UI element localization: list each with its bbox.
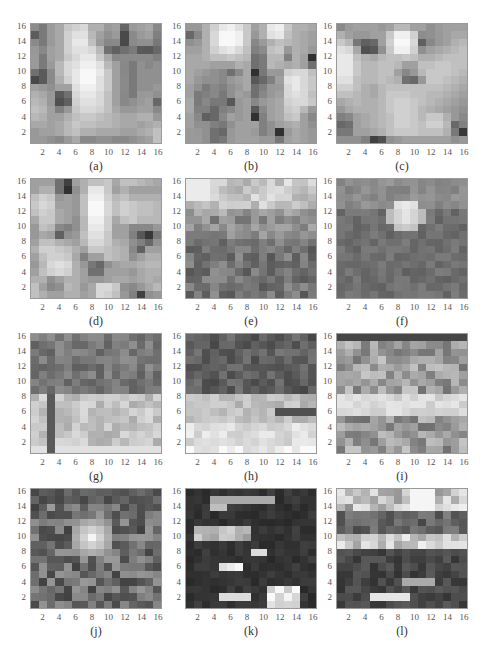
heatmap-cell <box>251 24 259 31</box>
heatmap-cell <box>96 601 104 608</box>
heatmap-cell <box>31 571 39 578</box>
heatmap-cell <box>361 186 369 193</box>
heatmap-cell <box>259 394 267 401</box>
heatmap-cell <box>353 386 361 393</box>
heatmap-cell <box>402 128 410 135</box>
heatmap-cell <box>410 98 418 105</box>
heatmap-cell <box>31 401 39 408</box>
heatmap-cell <box>378 179 386 186</box>
heatmap-cell <box>31 408 39 415</box>
heatmap-cell <box>259 571 267 578</box>
heatmap-cell <box>386 179 394 186</box>
heatmap-cell <box>300 549 308 556</box>
heatmap-cell <box>386 39 394 46</box>
heatmap-cell <box>129 504 137 511</box>
heatmap-cell <box>96 593 104 600</box>
heatmap-cell <box>418 84 426 91</box>
heatmap-cell <box>410 519 418 526</box>
heatmap-cell <box>243 416 251 423</box>
heatmap-cell <box>235 556 243 563</box>
heatmap-cell <box>394 519 402 526</box>
heatmap-cell <box>426 39 434 46</box>
heatmap-cell <box>219 511 227 518</box>
heatmap-cell <box>251 549 259 556</box>
heatmap-cell <box>47 76 55 83</box>
heatmap-cell <box>402 231 410 238</box>
heatmap-cell <box>426 371 434 378</box>
heatmap-cell <box>370 593 378 600</box>
heatmap-cell <box>120 364 128 371</box>
heatmap-cell <box>80 519 88 526</box>
heatmap-cell <box>202 91 210 98</box>
heatmap-cell <box>308 283 316 290</box>
heatmap-cell <box>219 186 227 193</box>
heatmap-cell <box>129 364 137 371</box>
heatmap-cell <box>202 496 210 503</box>
heatmap-cell <box>308 408 316 415</box>
heatmap-cell <box>120 239 128 246</box>
heatmap-cell <box>235 416 243 423</box>
heatmap-cell <box>275 431 283 438</box>
heatmap-cell <box>137 24 145 31</box>
x-tick-label: 2 <box>34 457 50 467</box>
heatmap-cell <box>129 24 137 31</box>
heatmap-cell <box>275 136 283 143</box>
heatmap-cell <box>353 186 361 193</box>
heatmap-cell <box>386 334 394 341</box>
heatmap-cell <box>72 216 80 223</box>
heatmap-cell <box>275 504 283 511</box>
heatmap-cell <box>47 128 55 135</box>
heatmap-cell <box>186 549 194 556</box>
heatmap-cell <box>337 231 345 238</box>
x-tick-label: 16 <box>305 612 321 622</box>
y-tick-label: 4 <box>10 577 26 587</box>
heatmap-cell <box>120 386 128 393</box>
heatmap-cell <box>378 76 386 83</box>
heatmap-cell <box>64 601 72 608</box>
heatmap-cell <box>72 519 80 526</box>
heatmap-cell <box>259 209 267 216</box>
heatmap-cell <box>186 519 194 526</box>
heatmap-cell <box>459 186 467 193</box>
heatmap-cell <box>210 356 218 363</box>
heatmap-cell <box>64 526 72 533</box>
heatmap-cell <box>259 31 267 38</box>
heatmap-cell <box>72 54 80 61</box>
heatmap-cell <box>186 364 194 371</box>
heatmap-cell <box>80 261 88 268</box>
x-tick-label: 8 <box>239 457 255 467</box>
heatmap-cell <box>235 401 243 408</box>
heatmap-cell <box>426 136 434 143</box>
heatmap-cell <box>426 446 434 453</box>
heatmap-cell <box>378 379 386 386</box>
heatmap-cell <box>410 356 418 363</box>
heatmap-cell <box>345 31 353 38</box>
heatmap-cell <box>284 341 292 348</box>
heatmap-cell <box>267 246 275 253</box>
heatmap-cell <box>426 379 434 386</box>
heatmap-cell <box>243 438 251 445</box>
heatmap-cell <box>308 91 316 98</box>
heatmap-cell <box>459 291 467 298</box>
heatmap-cell <box>402 394 410 401</box>
heatmap-cell <box>210 438 218 445</box>
heatmap-cell <box>64 31 72 38</box>
heatmap-cell <box>259 586 267 593</box>
heatmap-cell <box>435 91 443 98</box>
heatmap-cell <box>235 136 243 143</box>
heatmap-cell <box>129 526 137 533</box>
heatmap-cell <box>210 586 218 593</box>
heatmap-cell <box>337 349 345 356</box>
heatmap-cell <box>137 46 145 53</box>
heatmap-cell <box>243 541 251 548</box>
x-tick-label: 6 <box>67 147 83 157</box>
y-tick-label: 2 <box>10 437 26 447</box>
heatmap-cell <box>55 201 63 208</box>
heatmap-cell <box>402 24 410 31</box>
y-tick-label: 6 <box>165 251 181 261</box>
heatmap-cell <box>402 246 410 253</box>
x-tick-label: 16 <box>456 302 472 312</box>
heatmap-cell <box>418 496 426 503</box>
heatmap-cell <box>243 224 251 231</box>
panel-caption: (l) <box>336 624 468 639</box>
